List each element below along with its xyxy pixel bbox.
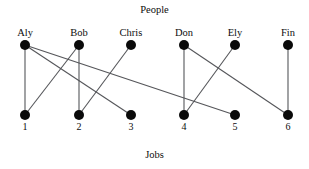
graph-canvas: People AlyBobChrisDonElyFin123456 Jobs (0, 0, 309, 169)
person-node-don[interactable] (179, 40, 189, 50)
edges-layer (25, 45, 288, 115)
person-node-ely[interactable] (230, 40, 240, 50)
person-node-fin[interactable] (283, 40, 293, 50)
edge-don-j6 (184, 45, 288, 115)
person-label-ely: Ely (228, 27, 243, 38)
person-label-bob: Bob (70, 27, 88, 38)
person-node-bob[interactable] (74, 40, 84, 50)
nodes-layer: AlyBobChrisDonElyFin123456 (17, 27, 296, 132)
edge-aly-j3 (25, 45, 131, 115)
job-node-j4[interactable] (179, 110, 189, 120)
bottom-title: Jobs (145, 149, 164, 160)
edge-aly-j5 (25, 45, 235, 115)
top-title: People (140, 4, 169, 15)
job-label-j4: 4 (182, 121, 187, 132)
job-node-j3[interactable] (126, 110, 136, 120)
person-label-don: Don (175, 27, 194, 38)
person-node-aly[interactable] (20, 40, 30, 50)
edge-bob-j1 (25, 45, 79, 115)
person-node-chris[interactable] (126, 40, 136, 50)
bipartite-graph-diagram: People AlyBobChrisDonElyFin123456 Jobs (0, 0, 309, 169)
job-label-j1: 1 (23, 121, 28, 132)
job-label-j6: 6 (286, 121, 291, 132)
job-node-j5[interactable] (230, 110, 240, 120)
job-label-j2: 2 (77, 121, 82, 132)
job-label-j5: 5 (233, 121, 238, 132)
job-node-j1[interactable] (20, 110, 30, 120)
job-label-j3: 3 (129, 121, 134, 132)
job-node-j6[interactable] (283, 110, 293, 120)
edge-chris-j2 (79, 45, 131, 115)
person-label-fin: Fin (281, 27, 296, 38)
person-label-aly: Aly (17, 27, 34, 38)
person-label-chris: Chris (120, 27, 143, 38)
job-node-j2[interactable] (74, 110, 84, 120)
edge-ely-j4 (184, 45, 235, 115)
